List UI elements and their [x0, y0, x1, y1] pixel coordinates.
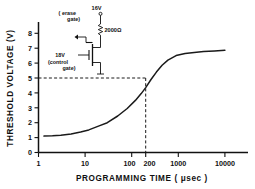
y-tick-label-0: 0 [28, 148, 32, 157]
chart-svg: 0 1 2 3 4 5 6 7 8 1 10 100 200 1000 1000… [0, 0, 255, 189]
resistor-icon [98, 24, 102, 40]
data-curve [44, 50, 225, 136]
threshold-marker-annotation [39, 78, 146, 153]
y-tick-label-5: 5 [28, 74, 32, 83]
erase-gate-arrow-icon [75, 35, 79, 40]
x-tick-label-1: 1 [37, 159, 41, 168]
x-tick-label-10: 10 [81, 159, 89, 168]
circuit-schematic-inset: 16V 2000Ω ( erase gate [48, 5, 122, 75]
control-gate-label-line1: (control [48, 59, 69, 65]
x-axis-title: PROGRAMMING TIME ( μsec ) [76, 174, 208, 183]
x-tick-label-1000: 1000 [170, 159, 186, 168]
x-tick-label-200: 200 [144, 159, 156, 168]
y-tick-label-1: 1 [28, 133, 32, 142]
y-tick-label-4: 4 [28, 89, 32, 98]
x-axis-tick-labels: 1 10 100 200 1000 10000 [37, 159, 235, 168]
figure-threshold-voltage-vs-programming-time: 0 1 2 3 4 5 6 7 8 1 10 100 200 1000 1000… [0, 0, 255, 189]
resistor-value-label: 2000Ω [105, 27, 122, 33]
x-tick-label-100: 100 [124, 159, 136, 168]
supply-voltage-label: 16V [92, 5, 102, 11]
control-gate-label-line2: gate) [63, 65, 76, 71]
y-tick-label-7: 7 [28, 44, 32, 53]
y-tick-label-6: 6 [28, 59, 32, 68]
y-tick-label-2: 2 [28, 118, 32, 127]
axes [39, 22, 249, 153]
control-gate-voltage-label: 18V [55, 52, 65, 58]
supply-node-terminal-icon [99, 12, 102, 15]
y-tick-label-3: 3 [28, 104, 32, 113]
erase-gate-label-line2: gate) [67, 16, 80, 22]
y-axis-tick-labels: 0 1 2 3 4 5 6 7 8 [28, 29, 32, 157]
y-tick-label-8: 8 [28, 29, 32, 38]
y-axis-title: THRESHOLD VOLTAGE (V) [6, 29, 15, 146]
x-tick-label-10000: 10000 [215, 159, 235, 168]
